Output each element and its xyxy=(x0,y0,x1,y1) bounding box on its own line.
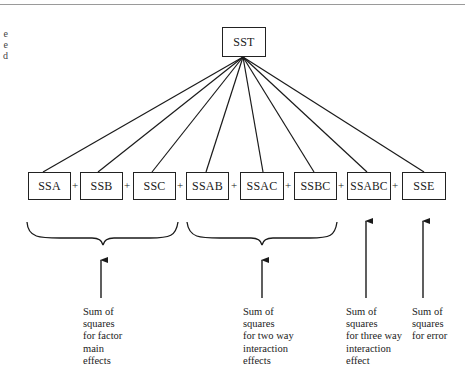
annotation-error: Sum of squares for error xyxy=(412,306,447,343)
node-sse: SSE xyxy=(402,172,446,200)
plus-operator: + xyxy=(175,179,185,191)
node-sst: SST xyxy=(222,27,266,57)
edge-sst-ssab xyxy=(206,57,243,172)
edge-sst-ssbc xyxy=(243,57,314,172)
edge-sst-ssc xyxy=(152,57,243,172)
node-ssab: SSAB xyxy=(186,172,229,200)
plus-operator: + xyxy=(390,179,400,191)
plus-operator: + xyxy=(336,179,346,191)
edge-sst-sse xyxy=(243,57,424,172)
brace-main-effects xyxy=(27,222,178,245)
annotation-three-way: Sum of squares for three way interaction… xyxy=(346,306,402,367)
node-ssa: SSA xyxy=(28,172,71,200)
node-ssbc: SSBC xyxy=(294,172,337,200)
plus-operator: + xyxy=(70,179,80,191)
tree-edges xyxy=(43,57,424,172)
annotation-main-effects: Sum of squares for factor main effects xyxy=(83,306,122,367)
annotation-two-way: Sum of squares for two way interaction e… xyxy=(243,306,294,367)
brace-two-way xyxy=(187,222,337,245)
edge-sst-ssb xyxy=(98,57,243,172)
node-ssc: SSC xyxy=(133,172,176,200)
node-ssb: SSB xyxy=(80,172,123,200)
edge-sst-ssa xyxy=(43,57,243,172)
plus-operator: + xyxy=(122,179,132,191)
node-ssabc: SSABC xyxy=(347,172,391,200)
plus-operator: + xyxy=(283,179,293,191)
node-ssac: SSAC xyxy=(240,172,284,200)
plus-operator: + xyxy=(229,179,239,191)
edge-sst-ssabc xyxy=(243,57,367,172)
